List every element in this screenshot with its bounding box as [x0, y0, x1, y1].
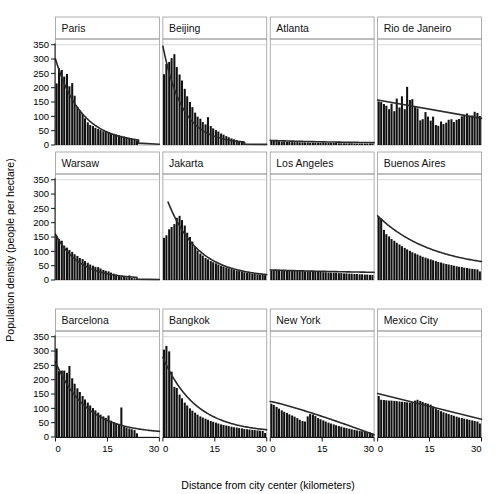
- panel-strip-label: Warsaw: [62, 157, 100, 169]
- histogram-bar: [126, 428, 128, 437]
- histogram-bar: [468, 117, 470, 145]
- histogram-bar: [442, 124, 444, 145]
- histogram-bar: [281, 270, 283, 280]
- x-tick-label: 0: [270, 443, 275, 454]
- histogram-bar: [393, 401, 395, 437]
- histogram-bar: [369, 144, 371, 145]
- histogram-bar: [380, 400, 382, 437]
- histogram-bar: [230, 427, 232, 437]
- histogram-bar: [79, 392, 81, 437]
- panel-strip-label: Beijing: [169, 22, 201, 34]
- histogram-bar: [322, 272, 324, 280]
- histogram-bar: [199, 254, 201, 280]
- x-tick-label: 0: [56, 443, 61, 454]
- histogram-bar: [340, 273, 342, 280]
- histogram-bar: [212, 422, 214, 437]
- histogram-bar: [456, 120, 458, 145]
- x-tick-label: 15: [210, 443, 221, 454]
- histogram-bar: [448, 265, 450, 280]
- histogram-bar: [202, 122, 204, 145]
- histogram-bar: [366, 144, 368, 145]
- histogram-bar: [388, 109, 390, 145]
- histogram-bar: [361, 431, 363, 437]
- histogram-bar: [296, 142, 298, 145]
- histogram-bar: [371, 275, 373, 280]
- histogram-bar: [205, 419, 207, 437]
- histogram-bar: [304, 142, 306, 145]
- histogram-bar: [254, 274, 256, 280]
- y-tick-label: 200: [33, 217, 49, 228]
- histogram-bar: [325, 422, 327, 437]
- histogram-bar: [401, 246, 403, 280]
- histogram-bar: [458, 267, 460, 280]
- histogram-bar: [264, 275, 266, 280]
- histogram-bar: [432, 406, 434, 437]
- histogram-bar: [199, 119, 201, 145]
- histogram-bar: [302, 271, 304, 280]
- panel-strip-label: Jakarta: [169, 157, 204, 169]
- histogram-bar: [133, 140, 135, 145]
- histogram-bar: [309, 143, 311, 145]
- histogram-bar: [440, 411, 442, 437]
- histogram-bar: [401, 402, 403, 437]
- histogram-bar: [291, 416, 293, 437]
- histogram-bar: [163, 238, 165, 280]
- histogram-bar: [176, 388, 178, 437]
- histogram-bar: [343, 428, 345, 437]
- histogram-bar: [120, 407, 122, 437]
- histogram-bar: [176, 67, 178, 145]
- x-tick-label: 30: [256, 443, 267, 454]
- histogram-bar: [463, 419, 465, 437]
- histogram-bar: [283, 271, 285, 280]
- histogram-bar: [241, 272, 243, 280]
- histogram-bar: [317, 418, 319, 437]
- histogram-bar: [238, 271, 240, 280]
- trellis-chart-figure: ParisBeijingAtlantaRio de JaneiroWarsawJ…: [0, 0, 499, 494]
- histogram-bar: [281, 142, 283, 145]
- histogram-bar: [437, 410, 439, 437]
- histogram-bar: [230, 269, 232, 280]
- histogram-bar: [89, 125, 91, 145]
- y-tick-label: 300: [33, 53, 49, 64]
- y-tick-label: 250: [33, 203, 49, 214]
- histogram-bar: [314, 416, 316, 437]
- panel-strip-label: Rio de Janeiro: [384, 22, 452, 34]
- histogram-bar: [404, 402, 406, 437]
- histogram-bar: [424, 112, 426, 145]
- histogram-bar: [327, 423, 329, 437]
- histogram-bar: [356, 430, 358, 437]
- histogram-bar: [291, 271, 293, 280]
- histogram-bar: [296, 418, 298, 437]
- histogram-bar: [317, 272, 319, 280]
- histogram-bar: [131, 278, 133, 280]
- panel-strip-label: Barcelona: [62, 314, 109, 326]
- y-tick-label: 250: [33, 360, 49, 371]
- histogram-bar: [471, 420, 473, 437]
- x-tick-label: 0: [378, 443, 383, 454]
- histogram-bar: [76, 107, 78, 145]
- histogram-bar: [100, 269, 102, 280]
- histogram-bar: [430, 121, 432, 145]
- histogram-bar: [309, 414, 311, 437]
- histogram-bar: [205, 124, 207, 145]
- histogram-bar: [273, 270, 275, 280]
- histogram-bar: [330, 143, 332, 145]
- histogram-bar: [312, 415, 314, 437]
- histogram-bar: [197, 415, 199, 437]
- histogram-bar: [414, 401, 416, 437]
- histogram-bar: [322, 143, 324, 145]
- histogram-bar: [435, 125, 437, 145]
- histogram-bar: [108, 271, 110, 280]
- histogram-bar: [102, 270, 104, 280]
- histogram-bar: [468, 420, 470, 437]
- histogram-bar: [396, 99, 398, 145]
- histogram-bar: [82, 114, 84, 145]
- histogram-bar: [393, 111, 395, 145]
- histogram-bar: [435, 261, 437, 280]
- histogram-bar: [241, 428, 243, 437]
- histogram-bar: [299, 420, 301, 437]
- histogram-bar: [450, 119, 452, 145]
- histogram-bar: [325, 272, 327, 280]
- x-tick-label: 15: [424, 443, 435, 454]
- histogram-bar: [479, 271, 481, 280]
